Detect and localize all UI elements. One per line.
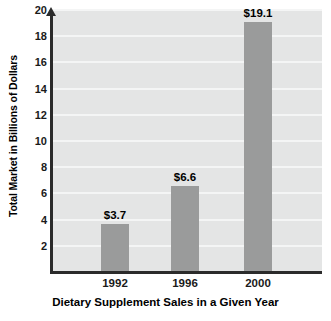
y-axis-tick-label: 4 [41,214,47,226]
y-axis-tick-label: 18 [35,30,47,42]
x-axis-tick-labels: 199219962000 [53,277,322,293]
x-axis-tick-label-1996: 1996 [172,277,198,289]
y-axis-tick-label: 2 [41,240,47,252]
gridline [53,35,322,37]
y-axis-arrow-icon [46,7,56,16]
y-axis-tick-label: 16 [35,56,47,68]
plot-area: $3.7$6.6$19.1 [53,10,322,272]
bar-1996 [171,186,199,272]
bar-value-label: $3.7 [104,209,126,221]
gridline [53,140,322,142]
x-axis-tick-label-2000: 2000 [245,277,271,289]
x-axis-title: Dietary Supplement Sales in a Given Year [0,296,331,308]
gridline [53,166,322,168]
y-axis-tick-labels: 2468101214161820 [26,0,50,290]
y-axis-tick-label: 14 [35,83,47,95]
bar-value-label: $19.1 [244,7,273,19]
bar-1992 [101,224,129,272]
y-axis-title: Total Market in Billions of Dollars [0,0,26,272]
gridline [53,88,322,90]
y-axis-tick-label: 6 [41,187,47,199]
y-axis-title-text: Total Market in Billions of Dollars [7,55,19,217]
bar-2000 [244,22,272,272]
gridline [53,9,322,11]
y-axis-line [50,14,53,273]
x-axis-line [50,271,322,274]
gridline [53,114,322,116]
y-axis-tick-label: 12 [35,109,47,121]
bar-chart: Total Market in Billions of Dollars 2468… [0,0,331,321]
y-axis-tick-label: 10 [35,135,47,147]
gridline [53,61,322,63]
bar-value-label: $6.6 [174,171,196,183]
x-axis-tick-label-1992: 1992 [102,277,128,289]
y-axis-tick-label: 8 [41,161,47,173]
